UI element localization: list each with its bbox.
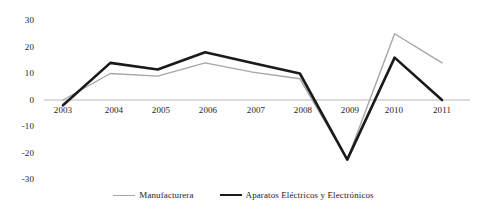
y-axis-tick: -10 (8, 122, 34, 131)
y-axis-tick: 20 (8, 43, 34, 52)
y-axis-tick: -20 (8, 149, 34, 158)
x-axis-tick: 2004 (94, 106, 134, 115)
legend-item-manufacturera[interactable]: Manufacturera (113, 190, 193, 200)
x-axis-tick: 2011 (422, 106, 462, 115)
x-axis-tick: 2009 (330, 106, 370, 115)
legend-label: Aparatos Eléctricos y Electrónicos (246, 190, 374, 200)
x-axis-tick: 2007 (236, 106, 276, 115)
x-axis-tick: 2003 (43, 106, 83, 115)
x-axis-tick: 2008 (283, 106, 323, 115)
line-chart: 30 20 10 0 -10 -20 -30 2003 2004 2005 20… (0, 0, 487, 221)
series-line-manufacturera (63, 34, 442, 160)
x-axis-tick: 2005 (141, 106, 181, 115)
y-axis-tick: 0 (8, 96, 34, 105)
legend-item-aparatos-electricos-y-electronicos[interactable]: Aparatos Eléctricos y Electrónicos (220, 190, 374, 200)
y-axis-tick: 10 (8, 69, 34, 78)
y-axis-tick: -30 (8, 175, 34, 184)
legend-line-icon (220, 194, 242, 196)
x-axis-tick: 2006 (188, 106, 228, 115)
legend-label: Manufacturera (139, 190, 193, 200)
legend-line-icon (113, 195, 135, 196)
chart-legend: Manufacturera Aparatos Eléctricos y Elec… (0, 190, 487, 200)
x-axis-tick: 2010 (374, 106, 414, 115)
y-axis-tick: 30 (8, 16, 34, 25)
